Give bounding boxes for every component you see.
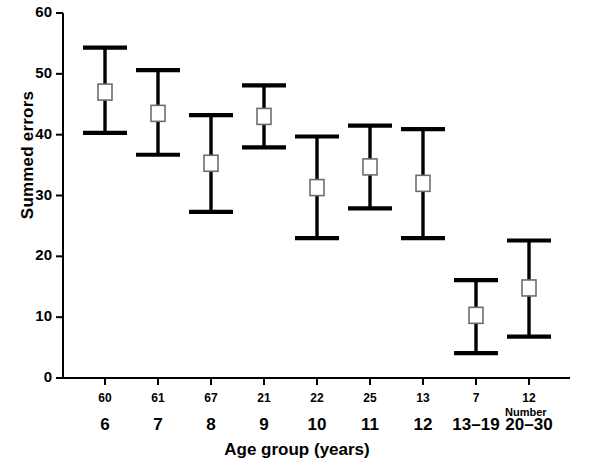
- mean-marker-square: [151, 105, 165, 121]
- mean-marker-square: [469, 307, 483, 323]
- count-label-6: 60: [78, 391, 132, 405]
- count-label-11: 25: [343, 391, 397, 405]
- errorbar-11: [348, 126, 392, 209]
- y-tick-label-0: 0: [12, 368, 52, 385]
- count-label-12: 13: [396, 391, 450, 405]
- errorbar-6: [83, 48, 127, 133]
- y-tick-label-60: 60: [12, 3, 52, 20]
- y-tick-label-10: 10: [12, 307, 52, 324]
- y-tick-label-20: 20: [12, 246, 52, 263]
- mean-marker-square: [522, 280, 536, 296]
- count-label-9: 21: [237, 391, 291, 405]
- mean-marker-square: [257, 108, 271, 124]
- x-tick-marks: [105, 378, 529, 385]
- errorbar-20–30: [507, 241, 551, 337]
- count-label-8: 67: [184, 391, 238, 405]
- errorbar-7: [136, 70, 180, 155]
- number-row-note: Number: [505, 406, 547, 418]
- count-label-20–30: 12: [502, 391, 556, 405]
- group-label-20–30: 20–30: [494, 415, 564, 435]
- errorbar-12: [401, 129, 445, 238]
- data-series-errorbars: [83, 48, 551, 353]
- count-label-10: 22: [290, 391, 344, 405]
- y-tick-marks: [56, 13, 63, 378]
- x-axis-title: Age group (years): [62, 440, 532, 460]
- count-label-7: 61: [131, 391, 185, 405]
- mean-marker-square: [204, 155, 218, 171]
- mean-marker-square: [310, 180, 324, 196]
- y-axis-title: Summed errors: [18, 65, 38, 245]
- chart-container: Summed errors Age group (years) 01020304…: [0, 0, 592, 473]
- errorbar-13–19: [454, 280, 498, 353]
- mean-marker-square: [416, 175, 430, 191]
- errorbar-10: [295, 136, 339, 238]
- errorbar-8: [189, 115, 233, 212]
- count-label-13–19: 7: [449, 391, 503, 405]
- y-tick-label-50: 50: [12, 64, 52, 81]
- mean-marker-square: [98, 84, 112, 100]
- y-tick-label-40: 40: [12, 125, 52, 142]
- mean-marker-square: [363, 159, 377, 175]
- y-tick-label-30: 30: [12, 186, 52, 203]
- errorbar-9: [242, 85, 286, 147]
